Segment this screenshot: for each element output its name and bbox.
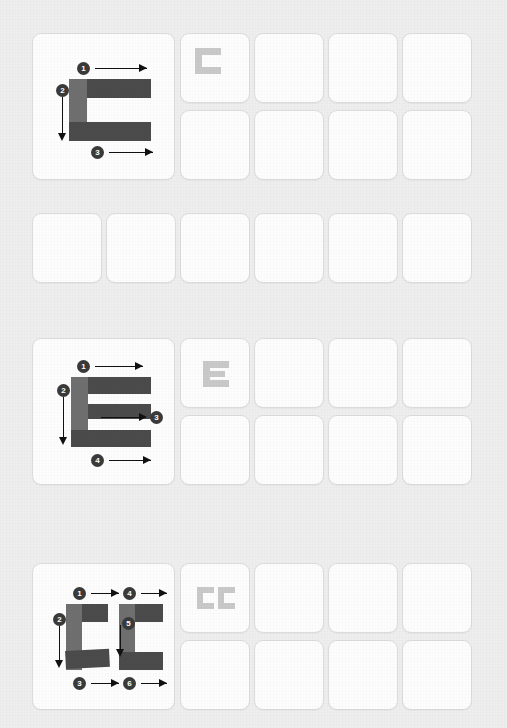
stroke-arrow-3	[101, 411, 149, 424]
ghost-letter-c	[195, 48, 221, 74]
practice-cell[interactable]	[254, 563, 324, 633]
arrow-head	[58, 133, 66, 141]
stroke-badge-1: 1	[77, 360, 90, 373]
arrow-head	[143, 456, 151, 464]
practice-cell[interactable]	[402, 640, 472, 710]
stroke-badge-3: 3	[73, 677, 86, 690]
arrow-head	[139, 413, 147, 421]
practice-cell[interactable]	[402, 213, 472, 283]
practice-cell[interactable]	[328, 338, 398, 408]
ghost-bottom-bar	[195, 67, 221, 74]
stroke-badge-3: 3	[91, 146, 104, 159]
practice-cell[interactable]	[328, 640, 398, 710]
arrow-head	[116, 649, 124, 657]
stroke-arrow-4	[131, 587, 177, 600]
practice-cell[interactable]	[328, 213, 398, 283]
stroke-arrow-2	[56, 91, 69, 141]
practice-cell[interactable]	[328, 110, 398, 180]
arrow-head	[59, 437, 67, 445]
stroke-badge-1: 1	[77, 62, 90, 75]
stroke-badge-4: 4	[123, 587, 136, 600]
practice-cell[interactable]	[180, 33, 250, 103]
stroke-arrow-1	[81, 587, 127, 600]
practice-cell[interactable]	[180, 415, 250, 485]
practice-cell[interactable]	[328, 415, 398, 485]
arrow-head	[111, 679, 119, 687]
practice-cell[interactable]	[32, 213, 102, 283]
stroke-arrow-3	[99, 146, 161, 159]
practice-cell[interactable]	[328, 563, 398, 633]
glyph-c-bottom-bar	[69, 122, 151, 141]
demo-cell-e: 1 2 3 4	[32, 338, 175, 485]
practice-cell[interactable]	[180, 640, 250, 710]
stroke-badge-2: 2	[57, 384, 70, 397]
practice-cell[interactable]	[106, 213, 176, 283]
practice-cell[interactable]	[402, 415, 472, 485]
stroke-badge-6: 6	[123, 677, 136, 690]
ghost-letter-e	[203, 361, 229, 387]
demo-cell-cc: 1 2 3 4 5 6	[32, 563, 175, 710]
arrow-head	[135, 362, 143, 370]
worksheet-section-c: 1 2 3	[0, 33, 507, 280]
stroke-badge-1: 1	[73, 587, 86, 600]
glyph-cc-first-bottom-bar	[65, 649, 110, 669]
practice-cell[interactable]	[254, 33, 324, 103]
practice-cell[interactable]	[254, 213, 324, 283]
practice-cell[interactable]	[254, 338, 324, 408]
arrow-head	[139, 64, 147, 72]
practice-cell[interactable]	[402, 563, 472, 633]
demo-cell-c: 1 2 3	[32, 33, 175, 180]
practice-cell[interactable]	[402, 33, 472, 103]
arrow-head	[159, 589, 167, 597]
stroke-arrow-3	[81, 677, 127, 690]
ghost-first-bottom-bar	[197, 603, 214, 609]
ghost-second-bottom-bar	[218, 603, 235, 609]
stroke-arrow-2	[53, 620, 66, 670]
stroke-arrow-1	[85, 360, 147, 373]
stroke-badge-2: 2	[56, 84, 69, 97]
practice-cell[interactable]	[254, 110, 324, 180]
glyph-c	[69, 79, 151, 141]
stroke-badge-2: 2	[53, 613, 66, 626]
worksheet-section-cc: 1 2 3 4 5 6	[0, 563, 507, 710]
stroke-arrow-6	[131, 677, 177, 690]
stroke-arrow-1	[85, 62, 147, 75]
arrow-head	[55, 660, 63, 668]
ghost-middle-bar	[203, 371, 225, 377]
glyph-e-bottom-bar	[71, 430, 151, 447]
practice-cell[interactable]	[254, 415, 324, 485]
stroke-badge-5: 5	[122, 617, 135, 630]
practice-cell[interactable]	[328, 33, 398, 103]
stroke-arrow-4	[99, 454, 161, 467]
arrow-head	[145, 148, 153, 156]
stroke-arrow-2	[57, 391, 70, 447]
practice-cell[interactable]	[180, 563, 250, 633]
stroke-badge-4: 4	[91, 454, 104, 467]
arrow-line	[101, 417, 139, 419]
practice-cell[interactable]	[180, 110, 250, 180]
practice-cell[interactable]	[180, 213, 250, 283]
practice-cell[interactable]	[402, 338, 472, 408]
worksheet-section-e: 1 2 3 4	[0, 338, 507, 485]
practice-cell[interactable]	[180, 338, 250, 408]
ghost-bottom-bar	[203, 380, 229, 387]
arrow-head	[159, 679, 167, 687]
practice-cell[interactable]	[254, 640, 324, 710]
stroke-badge-3: 3	[150, 411, 163, 424]
ghost-letter-cc	[197, 587, 235, 609]
practice-cell[interactable]	[402, 110, 472, 180]
arrow-head	[111, 589, 119, 597]
